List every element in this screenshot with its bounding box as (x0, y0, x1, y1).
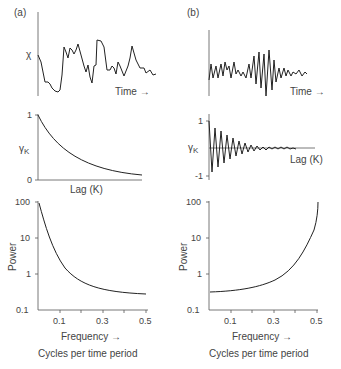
xlabel-frequency-a: Frequency → (61, 331, 121, 342)
ytick-a-01: 0.1 (16, 305, 29, 315)
ytick-b-10: 10 (191, 233, 201, 243)
xtick-a-01: 0.1 (53, 316, 66, 326)
panel-label-b: (b) (187, 7, 199, 18)
xsublabel-cycles-a: Cycles per time period (38, 348, 137, 359)
xlabel-lag-b: Lag (K) (290, 154, 323, 165)
series-b-acf (209, 121, 296, 172)
series-b-psd (210, 202, 318, 292)
xlabel-frequency-b: Frequency → (232, 331, 292, 342)
ytick-b-1: 1 (198, 116, 203, 126)
ytick-a-0: 0 (27, 175, 32, 185)
ytick-a-1: 1 (27, 110, 32, 120)
ylabel-power-a: Power (7, 242, 18, 271)
xtick-a-03: 0.3 (96, 316, 109, 326)
ylabel-gamma-a: γK (19, 143, 30, 156)
series-a-ts (38, 40, 156, 92)
ylabel-chi: χ (26, 49, 32, 60)
series-a-acf (38, 115, 142, 175)
figure: (a) (b) χ Time → Time → 1 0 γK Lag (K) 1… (0, 0, 341, 369)
xtick-b-01: 0.1 (224, 316, 237, 326)
xsublabel-cycles-b: Cycles per time period (209, 348, 308, 359)
xlabel-time-b: Time → (290, 86, 325, 97)
panel-label-a: (a) (14, 7, 26, 18)
series-a-psd (39, 203, 146, 294)
ytick-b-1p: 1 (197, 269, 202, 279)
ytick-b-neg1: -1 (195, 171, 203, 181)
xlabel-time-a: Time → (115, 86, 150, 97)
xtick-a-05: 0.5 (139, 316, 152, 326)
ylabel-power-b: Power (178, 242, 189, 271)
ytick-a-10: 10 (20, 233, 30, 243)
xtick-b-05: 0.5 (310, 316, 323, 326)
xtick-b-03: 0.3 (267, 316, 280, 326)
ylabel-gamma-b: γK (188, 142, 199, 155)
ytick-b-01: 0.1 (187, 305, 200, 315)
xlabel-lag-a: Lag (K) (70, 184, 103, 195)
ytick-a-1p: 1 (26, 269, 31, 279)
ytick-a-100: 100 (15, 197, 30, 207)
ytick-b-100: 100 (186, 197, 201, 207)
